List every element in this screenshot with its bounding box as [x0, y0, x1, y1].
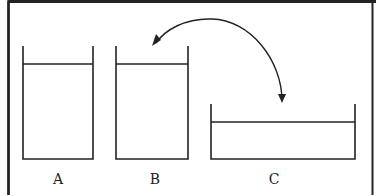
arrow-head-b-icon	[152, 34, 161, 46]
label-b: B	[150, 171, 160, 187]
label-c: C	[269, 171, 280, 187]
container-c	[211, 104, 355, 159]
arrow-head-c-icon	[278, 94, 286, 103]
frame-border-top-left	[9, 2, 377, 196]
label-a: A	[52, 171, 64, 187]
container-b	[116, 46, 188, 159]
arrow-curve	[156, 19, 282, 101]
diagram-frame: A B C	[0, 0, 378, 195]
diagram-canvas: A B C	[0, 0, 378, 195]
container-a	[23, 46, 93, 159]
